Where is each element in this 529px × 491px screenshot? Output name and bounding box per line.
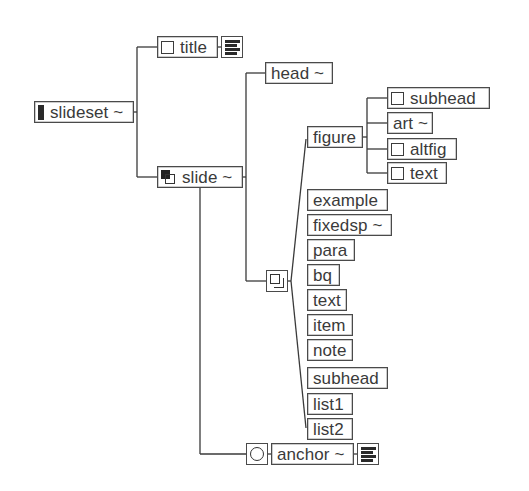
- node-slideset[interactable]: slideset ~: [34, 101, 134, 123]
- node-figure[interactable]: figure: [307, 126, 363, 148]
- node-label: item: [311, 317, 346, 334]
- node-text[interactable]: text: [307, 289, 347, 311]
- text-lines-icon[interactable]: [357, 443, 379, 465]
- node-label: slideset ~: [48, 104, 123, 121]
- node-label: fixedsp ~: [311, 217, 382, 234]
- node-label: list2: [311, 421, 344, 438]
- node-label: subhead: [408, 90, 476, 107]
- node-label: list1: [311, 396, 344, 413]
- node-head[interactable]: head ~: [265, 62, 333, 84]
- node-label: title: [178, 39, 207, 56]
- node-title[interactable]: title: [157, 36, 218, 58]
- node-figure-subhead[interactable]: subhead: [387, 87, 490, 109]
- node-label: text: [408, 165, 438, 182]
- empty-box-icon: [391, 167, 404, 180]
- node-label: slide ~: [180, 169, 232, 186]
- node-figure-text[interactable]: text: [387, 162, 447, 184]
- node-label: subhead: [311, 370, 379, 387]
- node-anchor[interactable]: anchor ~: [271, 443, 354, 465]
- choice-group-icon[interactable]: [266, 270, 288, 292]
- node-slide[interactable]: slide ~: [157, 166, 243, 188]
- node-label: note: [311, 342, 347, 359]
- structure-diagram: slideset ~ title slide ~ head ~ figure s…: [0, 0, 529, 491]
- node-example[interactable]: example: [307, 189, 388, 211]
- node-fixedsp[interactable]: fixedsp ~: [307, 214, 392, 236]
- node-item[interactable]: item: [307, 314, 353, 336]
- node-label: head ~: [269, 65, 324, 82]
- node-label: altfig: [408, 141, 447, 158]
- empty-box-icon: [391, 143, 404, 156]
- node-label: text: [311, 292, 341, 309]
- node-label: anchor ~: [275, 446, 344, 463]
- circle-icon: [250, 447, 264, 461]
- node-label: bq: [311, 267, 332, 284]
- node-para[interactable]: para: [307, 239, 355, 261]
- node-subhead[interactable]: subhead: [307, 367, 388, 389]
- node-label: figure: [311, 129, 356, 146]
- empty-box-icon: [391, 92, 404, 105]
- node-figure-art[interactable]: art ~: [387, 112, 433, 134]
- node-label: para: [311, 242, 347, 259]
- empty-box-icon: [161, 41, 174, 54]
- node-figure-altfig[interactable]: altfig: [387, 138, 457, 160]
- filled-bar-icon: [38, 105, 44, 120]
- circle-attribute-box[interactable]: [246, 443, 268, 465]
- node-label: example: [311, 192, 378, 209]
- choice-icon: [270, 274, 285, 289]
- text-lines-icon[interactable]: [221, 36, 243, 58]
- node-note[interactable]: note: [307, 339, 353, 361]
- sequence-icon: [161, 170, 176, 185]
- node-list2[interactable]: list2: [307, 418, 353, 440]
- node-label: art ~: [391, 115, 428, 132]
- node-bq[interactable]: bq: [307, 264, 340, 286]
- node-list1[interactable]: list1: [307, 393, 353, 415]
